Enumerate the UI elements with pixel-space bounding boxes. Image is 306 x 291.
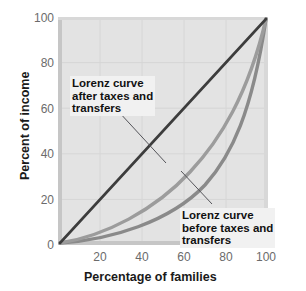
annotation-before-line-2: before taxes and	[182, 222, 273, 235]
lorenz-curve-chart: 100 80 60 40 20 0 20 40 60 80 100 Percen…	[0, 0, 306, 291]
x-tick-60: 60	[169, 250, 199, 264]
x-axis-title: Percentage of families	[84, 270, 217, 284]
y-axis-band	[58, 17, 62, 245]
x-tick-40: 40	[127, 250, 157, 264]
x-tick-80: 80	[211, 250, 241, 264]
annotation-after-line-2: after taxes and	[72, 90, 153, 103]
y-tick-20: 20	[20, 193, 54, 207]
x-tick-100: 100	[251, 250, 281, 264]
annotation-lorenz-after-taxes: Lorenz curve after taxes and transfers	[70, 76, 155, 116]
x-tick-20: 20	[85, 250, 115, 264]
y-axis-title: Percent of income	[18, 72, 32, 180]
annotation-lorenz-before-taxes: Lorenz curve before taxes and transfers	[180, 208, 275, 248]
annotation-after-line-1: Lorenz curve	[72, 77, 153, 90]
y-tick-0: 0	[20, 238, 54, 252]
plot-top-border	[58, 17, 268, 20]
annotation-after-line-3: transfers	[72, 102, 153, 115]
annotation-before-line-1: Lorenz curve	[182, 209, 273, 222]
y-tick-80: 80	[20, 56, 54, 70]
y-tick-100: 100	[20, 11, 54, 25]
annotation-before-line-3: transfers	[182, 234, 273, 247]
